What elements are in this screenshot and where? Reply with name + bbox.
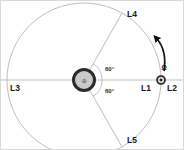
point-label-l2: L2: [167, 83, 177, 93]
point-label-l5: L5: [127, 135, 137, 145]
point-label-l4: L4: [127, 9, 137, 19]
lagrange-point-diagram: ☉ 60° 60° Ω L1 L2 L3 L4 L5: [0, 0, 184, 150]
secondary-body-core: [160, 79, 163, 82]
angle-label-lower: 60°: [105, 88, 115, 94]
orbital-motion-label: Ω: [161, 64, 166, 71]
point-label-l3: L3: [10, 83, 20, 93]
point-label-l1: L1: [141, 83, 151, 93]
angle-label-upper: 60°: [105, 66, 115, 72]
diagram-canvas: ☉ 60° 60° Ω L1 L2 L3 L4 L5: [1, 1, 184, 150]
